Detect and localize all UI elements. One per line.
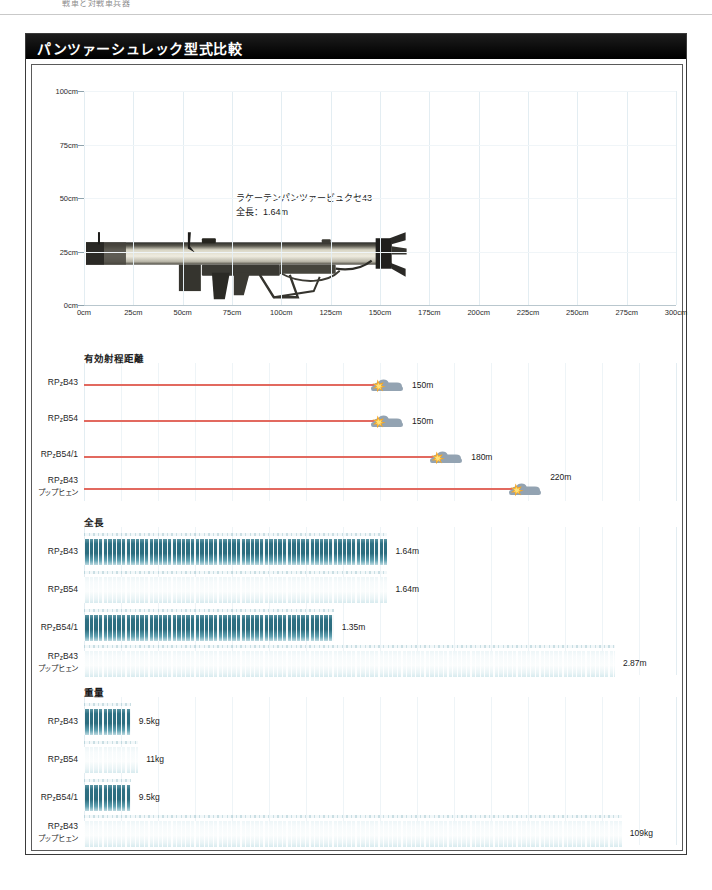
section-weight: 重量 RPzB439.5kgRPzB5411kgRPzB54/19.5kgRPz… <box>32 685 682 841</box>
value-bar <box>84 821 622 847</box>
y-tick-mark <box>78 198 84 199</box>
bar-value-label: 11kg <box>146 754 164 764</box>
bar-top-edge <box>84 703 131 706</box>
bar-row: RPzB5411kg <box>32 745 682 779</box>
range-value-label: 220m <box>550 472 571 482</box>
x-tick-label: 125cm <box>319 308 342 317</box>
range-line <box>84 488 518 490</box>
row-label-3: RPzB43プップヒェン <box>32 475 78 498</box>
bar-value-label: 1.35m <box>342 622 366 632</box>
bar-row: RPzB54/19.5kg <box>32 783 682 817</box>
bar-top-edge <box>84 815 622 818</box>
row-label-1: RPzB54 <box>32 413 78 425</box>
range-row: RPzB54/1180m <box>32 443 682 477</box>
bar-top-edge <box>84 609 334 612</box>
row-label-0: RPzB43 <box>32 716 78 728</box>
bar-value-label: 9.5kg <box>139 716 160 726</box>
section-title-length: 全長 <box>84 515 104 529</box>
bar-row: RPzB541.64m <box>32 575 682 609</box>
x-tick-label: 25cm <box>124 308 142 317</box>
tank-hit-icon <box>429 449 463 466</box>
comparison-panel: パンツァーシュレック型式比較 <box>25 33 687 855</box>
x-tick-label: 150cm <box>369 308 392 317</box>
bar-value-label: 109kg <box>630 828 653 838</box>
page-header-rule <box>0 14 712 15</box>
y-tick-label: 50cm <box>60 194 78 203</box>
page-header-text: 戦車と対戦車兵器 <box>62 0 130 8</box>
y-tick-label: 0cm <box>64 301 78 310</box>
y-tick-mark <box>78 252 84 253</box>
x-tick-label: 300cm <box>665 308 688 317</box>
bar-value-label: 2.87m <box>623 658 647 668</box>
y-tick-mark <box>78 91 84 92</box>
silhouette-x-axis: 0cm25cm50cm75cm100cm125cm150cm175cm200cm… <box>84 308 676 322</box>
range-row: RPzB43150m <box>32 371 682 405</box>
value-bar <box>84 539 387 565</box>
bar-value-label: 1.64m <box>395 584 419 594</box>
row-label-2: RPzB54/1 <box>32 449 78 461</box>
row-label-2: RPzB54/1 <box>32 622 78 634</box>
value-bar <box>84 709 131 735</box>
panel-title: パンツァーシュレック型式比較 <box>37 38 242 58</box>
bar-top-edge <box>84 533 387 536</box>
y-tick-label: 75cm <box>60 140 78 149</box>
range-line <box>84 456 439 458</box>
row-label-1: RPzB54 <box>32 584 78 596</box>
x-tick-label: 200cm <box>467 308 490 317</box>
bar-top-edge <box>84 645 615 648</box>
section-overall-length: 全長 RPzB431.64mRPzB541.64mRPzB54/11.35mRP… <box>32 515 682 671</box>
row-label-0: RPzB43 <box>32 377 78 389</box>
range-value-label: 150m <box>412 380 433 390</box>
range-line <box>84 384 380 386</box>
section-title-range: 有効射程距離 <box>84 351 144 365</box>
gridline-vertical <box>676 91 677 305</box>
silhouette-annotation-subtitle: 全長：1.64m <box>236 205 288 218</box>
range-row: RPzB54150m <box>32 407 682 441</box>
row-label-2: RPzB54/1 <box>32 792 78 804</box>
row-label-0: RPzB43 <box>32 546 78 558</box>
y-tick-mark <box>78 145 84 146</box>
value-bar <box>84 577 387 603</box>
bar-top-edge <box>84 779 131 782</box>
x-tick-label: 225cm <box>517 308 540 317</box>
x-tick-label: 250cm <box>566 308 589 317</box>
range-line <box>84 420 380 422</box>
value-bar <box>84 651 615 677</box>
x-tick-label: 175cm <box>418 308 441 317</box>
gridline-horizontal <box>84 91 676 92</box>
gridline-horizontal <box>84 145 676 146</box>
gridline-horizontal <box>84 252 676 253</box>
range-value-label: 150m <box>412 416 433 426</box>
silhouette-y-axis: 0cm25cm50cm75cm100cm <box>32 91 78 305</box>
y-tick-label: 25cm <box>60 247 78 256</box>
value-bar <box>84 785 131 811</box>
value-bar <box>84 747 138 773</box>
bar-top-edge <box>84 741 138 744</box>
x-tick-label: 75cm <box>223 308 241 317</box>
section-title-weight: 重量 <box>84 685 104 699</box>
bar-value-label: 1.64m <box>395 546 419 556</box>
bar-row: RPzB54/11.35m <box>32 613 682 647</box>
silhouette-plot-area: ラケーテンパンツァービュクセ43 全長：1.64m <box>84 91 676 305</box>
bar-row: RPzB43プップヒェン109kg <box>32 819 682 853</box>
bar-top-edge <box>84 571 387 574</box>
row-label-3: RPzB43プップヒェン <box>32 821 78 844</box>
panel-inner-frame: ラケーテンパンツァービュクセ43 全長：1.64m 0cm25cm50cm75c… <box>31 64 683 851</box>
silhouette-x-axis-line <box>84 305 676 306</box>
row-label-3: RPzB43プップヒェン <box>32 651 78 674</box>
x-tick-label: 0cm <box>77 308 91 317</box>
x-tick-label: 50cm <box>173 308 191 317</box>
value-bar <box>84 615 334 641</box>
range-row: RPzB43プップヒェン220m <box>32 475 682 509</box>
tank-hit-icon <box>370 377 404 394</box>
y-tick-label: 100cm <box>55 87 78 96</box>
bar-value-label: 9.5kg <box>139 792 160 802</box>
bar-row: RPzB439.5kg <box>32 707 682 741</box>
bar-row: RPzB431.64m <box>32 537 682 571</box>
chart-silhouette: ラケーテンパンツァービュクセ43 全長：1.64m 0cm25cm50cm75c… <box>32 83 682 345</box>
tank-hit-icon <box>508 481 542 498</box>
section-effective-range: 有効射程距離 RPzB43150mRPzB54150mRPzB54/1180mR… <box>32 351 682 501</box>
gridline-horizontal <box>84 198 676 199</box>
x-tick-label: 100cm <box>270 308 293 317</box>
row-label-1: RPzB54 <box>32 754 78 766</box>
